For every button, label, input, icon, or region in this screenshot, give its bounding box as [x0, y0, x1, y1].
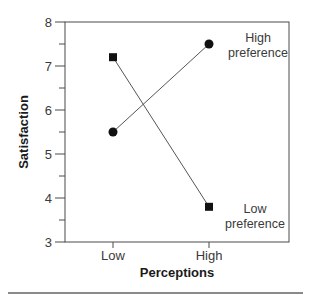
x-tick-label-high: High: [196, 248, 223, 263]
series-label-low-preference-line2: preference: [225, 217, 285, 231]
y-axis-ticks: [55, 22, 65, 242]
y-tick-label: 3: [45, 235, 52, 250]
y-tick-label: 5: [45, 147, 52, 162]
y-tick-label: 7: [45, 59, 52, 74]
circle-marker: [205, 40, 214, 49]
series-layer: [109, 40, 214, 211]
x-axis-title: Perceptions: [140, 265, 214, 280]
y-axis-tick-labels: 345678: [45, 15, 52, 250]
chart-canvas: 345678 Low High Perceptions Satisfaction…: [0, 0, 312, 295]
series-high-preference: [109, 40, 214, 137]
y-tick-label: 8: [45, 15, 52, 30]
circle-marker: [109, 128, 118, 137]
series-label-high-preference-line2: preference: [228, 46, 288, 60]
series-label-low-preference-line1: Low: [244, 202, 268, 216]
square-marker: [205, 203, 213, 211]
x-tick-label-low: Low: [101, 248, 125, 263]
series-line: [113, 44, 209, 132]
square-marker: [109, 53, 117, 61]
series-line: [113, 57, 209, 207]
y-axis-title: Satisfaction: [16, 95, 31, 169]
series-low-preference: [109, 53, 213, 211]
x-axis-ticks: [113, 242, 209, 248]
y-tick-label: 6: [45, 103, 52, 118]
series-label-high-preference-line1: High: [245, 31, 271, 45]
y-tick-label: 4: [45, 191, 52, 206]
